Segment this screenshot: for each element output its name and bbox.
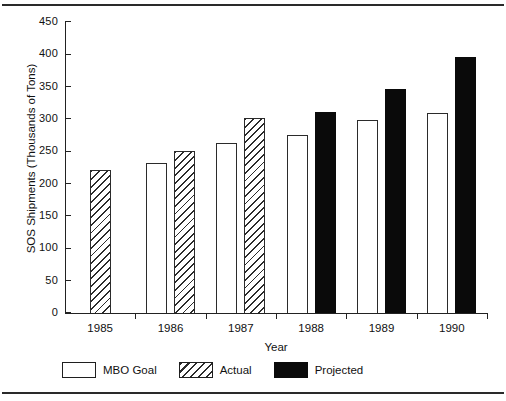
bar-1989-mbo-goal xyxy=(357,120,378,313)
y-axis-tick-label: 0 xyxy=(14,307,58,318)
legend-label: Projected xyxy=(315,364,364,377)
y-axis-tick xyxy=(65,215,71,216)
diagonal-hatch-swatch xyxy=(179,362,213,378)
x-axis-tick xyxy=(487,313,488,319)
y-axis-tick xyxy=(65,151,71,152)
bar-1986-actual xyxy=(174,151,195,313)
y-axis-tick-label: 450 xyxy=(14,16,58,27)
y-axis-tick xyxy=(65,312,71,313)
y-axis-tick-label: 50 xyxy=(14,275,58,286)
y-axis-tick xyxy=(65,183,71,184)
y-axis-tick xyxy=(65,86,71,87)
x-axis-tick-label: 1990 xyxy=(422,322,482,335)
x-axis-tick xyxy=(417,313,418,319)
y-axis-tick xyxy=(65,280,71,281)
y-axis-line xyxy=(65,22,66,313)
chart-legend: MBO GoalActualProjected xyxy=(62,360,385,380)
x-axis-tick-label: 1985 xyxy=(70,322,130,335)
x-axis-tick xyxy=(346,313,347,319)
bar-1988-projected xyxy=(315,112,336,313)
bar-1987-actual xyxy=(244,118,265,313)
legend-label: Actual xyxy=(220,364,252,377)
bar-1989-projected xyxy=(385,89,406,313)
legend-item-projected[interactable]: Projected xyxy=(274,362,364,378)
x-axis-tick xyxy=(206,313,207,319)
y-axis-tick xyxy=(65,248,71,249)
bar-1986-mbo-goal xyxy=(146,163,167,313)
bar-1988-mbo-goal xyxy=(287,135,308,313)
bar-1987-mbo-goal xyxy=(216,143,237,313)
y-axis-tick xyxy=(65,118,71,119)
solid-black-swatch xyxy=(274,362,308,378)
open-white-swatch xyxy=(62,362,96,378)
x-axis-tick xyxy=(135,313,136,319)
x-axis-tick-label: 1987 xyxy=(211,322,271,335)
legend-item-actual[interactable]: Actual xyxy=(179,362,252,378)
x-axis-tick-label: 1988 xyxy=(281,322,341,335)
bar-1990-mbo-goal xyxy=(427,113,448,313)
x-axis-tick xyxy=(276,313,277,319)
y-axis-title: SOS Shipments (Thousands of Tons) xyxy=(25,44,38,274)
bar-1990-projected xyxy=(455,57,476,313)
x-axis-tick-label: 1986 xyxy=(141,322,201,335)
x-axis-tick-label: 1989 xyxy=(352,322,412,335)
y-axis-tick xyxy=(65,21,71,22)
legend-item-mbo-goal[interactable]: MBO Goal xyxy=(62,362,157,378)
legend-label: MBO Goal xyxy=(103,364,157,377)
y-axis-tick xyxy=(65,54,71,55)
bar-1985-actual xyxy=(90,170,111,313)
x-axis-title: Year xyxy=(65,341,487,354)
bar-chart-figure: 050100150200250300350400450 198519861987… xyxy=(0,0,506,401)
